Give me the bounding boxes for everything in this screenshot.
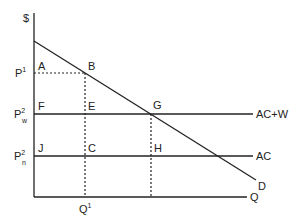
p1-label: P1 xyxy=(15,66,26,79)
point-h-label: H xyxy=(154,142,162,154)
ac-plus-w-label: AC+W xyxy=(256,108,289,120)
economics-diagram: $ Q D AC+W AC P1 P2 w P2 n Q1 A B F E G … xyxy=(0,0,300,222)
demand-label: D xyxy=(258,180,266,192)
point-a-label: A xyxy=(38,60,46,72)
point-e-label: E xyxy=(88,100,95,112)
pn2-subscript: n xyxy=(22,159,26,166)
demand-curve xyxy=(34,41,256,180)
point-g-label: G xyxy=(153,99,162,111)
point-j-label: J xyxy=(38,142,44,154)
x-axis-label: Q xyxy=(250,191,259,203)
point-f-label: F xyxy=(38,100,45,112)
pw2-subscript: w xyxy=(21,117,28,124)
ac-label: AC xyxy=(256,150,271,162)
point-b-label: B xyxy=(88,60,95,72)
q1-label: Q1 xyxy=(79,202,92,215)
point-c-label: C xyxy=(88,142,96,154)
y-axis-label: $ xyxy=(23,12,29,24)
